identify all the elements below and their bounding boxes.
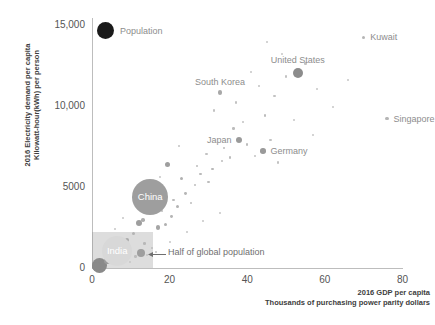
data-point	[250, 71, 252, 73]
population-legend-label: Population	[120, 26, 163, 36]
data-point-japan	[236, 137, 242, 143]
data-point	[141, 218, 145, 222]
data-point	[312, 134, 314, 136]
data-point	[159, 176, 161, 178]
data-point	[277, 161, 279, 163]
data-point	[169, 241, 171, 243]
point-label-united-states: United States	[258, 55, 338, 65]
point-label-kuwait: Kuwait	[370, 32, 397, 42]
data-point	[180, 177, 183, 180]
data-point	[190, 202, 192, 204]
x-tick-label: 80	[383, 274, 423, 285]
data-point	[176, 205, 179, 208]
data-point	[266, 41, 268, 43]
data-point	[196, 165, 198, 167]
point-label-south-korea: South Korea	[180, 77, 260, 87]
data-point	[219, 212, 221, 214]
data-point	[92, 262, 101, 271]
data-point	[143, 242, 146, 245]
data-point	[194, 184, 196, 186]
data-point	[199, 173, 202, 176]
x-tick-label: 0	[72, 274, 112, 285]
point-label-japan: Japan	[151, 135, 231, 145]
data-point	[178, 145, 180, 147]
data-point	[223, 147, 225, 149]
data-point-singapore	[385, 117, 388, 120]
data-point	[293, 119, 295, 121]
y-tick-label: 5000	[30, 181, 85, 192]
data-point	[202, 220, 204, 222]
data-point	[235, 101, 237, 103]
half-population-annotation: Half of global population	[168, 247, 265, 257]
data-point	[132, 232, 135, 235]
point-label-singapore: Singapore	[394, 114, 435, 124]
data-point	[207, 181, 209, 183]
population-legend-marker	[97, 22, 114, 39]
data-point	[273, 95, 275, 97]
data-point	[347, 79, 349, 81]
data-point	[242, 121, 244, 123]
point-label-india: India	[77, 246, 157, 256]
data-point-south-korea	[218, 90, 222, 94]
data-point	[114, 228, 116, 230]
data-point	[165, 162, 170, 167]
data-point	[254, 155, 256, 157]
data-point	[186, 231, 188, 233]
y-tick-label: 0	[30, 262, 85, 273]
data-point-kuwait	[362, 36, 365, 39]
point-label-china: China	[110, 192, 190, 202]
point-label-germany: Germany	[271, 146, 308, 156]
data-point	[205, 153, 207, 155]
x-tick-label: 20	[150, 274, 190, 285]
data-point	[122, 217, 124, 219]
annotation-arrow-icon	[148, 250, 166, 259]
x-tick-label: 60	[305, 274, 345, 285]
data-point	[232, 127, 234, 129]
data-point	[316, 88, 318, 90]
data-point	[229, 156, 231, 158]
data-point	[213, 109, 215, 111]
data-point	[164, 223, 167, 226]
data-point	[221, 160, 223, 162]
data-point	[211, 168, 214, 171]
data-point	[156, 225, 160, 229]
data-point	[264, 114, 266, 116]
data-point	[170, 215, 173, 218]
data-point	[269, 139, 271, 141]
y-tick-label: 15,000	[30, 19, 85, 30]
data-point-germany	[260, 148, 266, 154]
data-point	[332, 106, 334, 108]
data-point-united-states	[293, 68, 303, 78]
data-point	[285, 75, 287, 77]
x-tick-label: 40	[227, 274, 267, 285]
y-tick-label: 10,000	[30, 100, 85, 111]
data-point	[129, 261, 131, 263]
data-point	[246, 143, 248, 145]
